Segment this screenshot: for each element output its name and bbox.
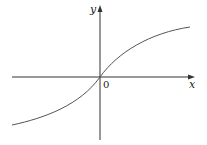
y-axis-arrow-icon (98, 5, 103, 12)
x-axis-label: x (189, 78, 195, 91)
function-curve (12, 27, 190, 125)
y-axis-label: y (90, 3, 96, 16)
origin-label: 0 (103, 79, 109, 90)
graph-canvas (0, 0, 207, 145)
